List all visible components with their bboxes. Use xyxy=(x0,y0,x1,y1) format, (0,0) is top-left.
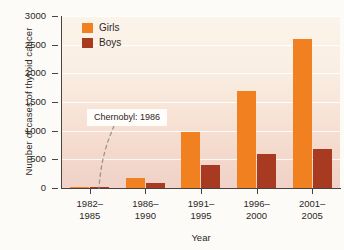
bar-girls xyxy=(70,187,89,188)
bar-girls xyxy=(293,39,312,188)
y-axis-tick xyxy=(52,188,58,189)
x-axis-tick xyxy=(90,188,91,194)
legend-item-girls: Girls xyxy=(82,22,121,33)
y-axis-tick-label: 3000 xyxy=(4,10,46,21)
bar-group xyxy=(229,16,285,188)
y-axis-tick-label: 2500 xyxy=(4,39,46,50)
x-axis-tick-label-line: 2001– xyxy=(277,198,344,210)
x-axis-tick-label-line: 2005 xyxy=(277,210,344,222)
bar-group xyxy=(173,16,229,188)
bar-group xyxy=(118,16,174,188)
bar-boys xyxy=(146,183,165,188)
legend: Girls Boys xyxy=(82,22,121,52)
x-axis-tick xyxy=(257,188,258,194)
bar-girls xyxy=(126,178,145,188)
legend-label-boys: Boys xyxy=(99,37,121,48)
x-axis-tick-label: 2001–2005 xyxy=(277,198,344,221)
y-axis-tick-label: 1000 xyxy=(4,125,46,136)
x-axis-tick xyxy=(145,188,146,194)
y-axis-tick xyxy=(52,102,58,103)
x-axis-title: Year xyxy=(62,232,340,243)
bar-boys xyxy=(201,165,220,188)
bar-girls xyxy=(181,132,200,188)
legend-swatch-girls xyxy=(82,23,93,33)
legend-label-girls: Girls xyxy=(99,22,120,33)
bar-boys xyxy=(257,154,276,188)
legend-swatch-boys xyxy=(82,38,93,48)
bar-boys xyxy=(313,149,332,188)
plot-area: 050010001500200025003000 1982–19851986–1… xyxy=(62,16,340,188)
y-axis-tick xyxy=(52,45,58,46)
bar-group xyxy=(284,16,340,188)
y-axis-tick-label: 2000 xyxy=(4,67,46,78)
y-axis-tick xyxy=(52,16,58,17)
y-axis-tick xyxy=(52,73,58,74)
y-axis-tick xyxy=(52,131,58,132)
y-axis-tick-label: 0 xyxy=(4,182,46,193)
bar-boys xyxy=(90,187,109,188)
y-axis-tick-label: 500 xyxy=(4,153,46,164)
x-axis-tick xyxy=(312,188,313,194)
bar-girls xyxy=(237,91,256,188)
x-axis-tick xyxy=(201,188,202,194)
y-axis-tick xyxy=(52,159,58,160)
y-axis-tick-label: 1500 xyxy=(4,96,46,107)
thyroid-cancer-bar-chart: Number of cases of thyroid cancer Year 0… xyxy=(0,0,344,250)
annotation-chernobyl: Chernobyl: 1986 xyxy=(87,109,167,126)
legend-item-boys: Boys xyxy=(82,37,121,48)
